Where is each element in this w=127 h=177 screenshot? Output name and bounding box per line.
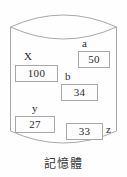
memory-diagram: X 100 a 50 b 34 y 27 33 z 記憶體 [0, 0, 127, 177]
cell-value-z: 33 [66, 123, 103, 140]
cell-label-x: X [24, 51, 32, 62]
figure-caption: 記憶體 [0, 158, 127, 170]
cell-value-a: 50 [78, 51, 110, 68]
cell-value-y: 27 [15, 116, 55, 133]
cell-label-z: z [106, 124, 111, 135]
cell-value-x: 100 [15, 65, 58, 82]
cell-label-y: y [32, 103, 38, 114]
cell-label-a: a [82, 38, 87, 49]
cell-label-b: b [65, 71, 71, 82]
cell-value-b: 34 [61, 84, 98, 101]
